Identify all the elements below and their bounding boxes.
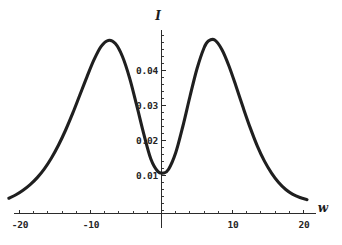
x-tick-label-20: 20 — [298, 219, 310, 230]
chart-screenshot: -20 -10 10 20 0.01 0.02 0.03 0.04 I w — [0, 0, 342, 245]
y-axis-major-ticks — [162, 71, 166, 176]
y-tick-label-0.01: 0.01 — [136, 170, 159, 181]
x-axis-title: w — [318, 201, 329, 215]
y-tick-label-0.02: 0.02 — [136, 135, 158, 146]
bimodal-intensity-plot: -20 -10 10 20 0.01 0.02 0.03 0.04 I w — [0, 0, 342, 245]
y-axis-title: I — [154, 9, 161, 23]
plot-axes — [14, 30, 316, 228]
x-tick-label-10: 10 — [227, 219, 239, 230]
x-tick-label--10: -10 — [83, 219, 100, 230]
y-tick-label-0.03: 0.03 — [136, 100, 159, 111]
y-tick-label-0.04: 0.04 — [136, 65, 159, 76]
x-tick-label--20: -20 — [12, 219, 29, 230]
